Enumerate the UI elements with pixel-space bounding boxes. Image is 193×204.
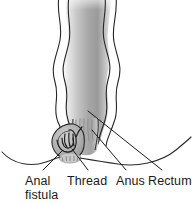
label-anal-fistula-second-line: fistula — [25, 188, 58, 202]
label-rectum: Rectum — [148, 174, 192, 188]
label-anus: Anus — [116, 174, 145, 188]
leader-anal-fistula — [43, 151, 62, 170]
label-anal: Anal — [25, 174, 50, 188]
anal-fistula-figure: Anal fistula Thread Anus Rectum — [0, 0, 193, 204]
label-thread: Thread — [67, 174, 107, 188]
